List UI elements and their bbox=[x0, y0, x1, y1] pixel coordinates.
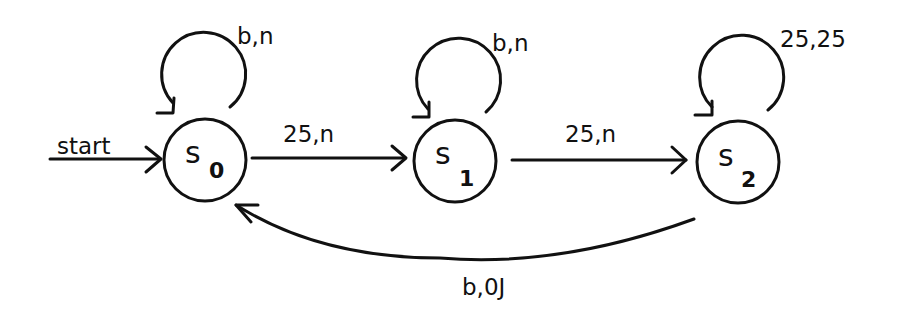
self-loop-s1 bbox=[413, 38, 501, 117]
transition-label-s2-s0: b,0J bbox=[462, 274, 505, 300]
state-s1: s 1 bbox=[414, 120, 496, 202]
transition-label-s1-s2: 25,n bbox=[565, 121, 616, 147]
state-s2: s 2 bbox=[697, 121, 779, 203]
state-s2-name: s bbox=[718, 138, 734, 173]
transition-s0-s1 bbox=[252, 146, 406, 170]
start-label: start bbox=[57, 133, 111, 159]
transition-s1-s2 bbox=[512, 147, 686, 173]
transition-label-s1-s1: b,n bbox=[492, 30, 529, 56]
state-diagram: start s 0 s 1 s 2 b,n 25,n b,n 25,n bbox=[0, 0, 918, 315]
state-s0: s 0 bbox=[164, 119, 246, 201]
state-s0-subscript: 0 bbox=[209, 158, 224, 183]
state-s0-name: s bbox=[185, 135, 201, 170]
transition-label-s0-s0: b,n bbox=[237, 23, 274, 49]
transition-label-s2-s2: 25,25 bbox=[780, 26, 846, 52]
state-s1-subscript: 1 bbox=[459, 166, 474, 191]
self-loop-s0 bbox=[157, 32, 246, 113]
self-loop-s2 bbox=[695, 35, 784, 115]
state-s1-name: s bbox=[435, 136, 451, 171]
transition-label-s0-s1: 25,n bbox=[283, 121, 334, 147]
transition-s2-s0 bbox=[236, 205, 694, 260]
state-s2-subscript: 2 bbox=[741, 167, 756, 192]
